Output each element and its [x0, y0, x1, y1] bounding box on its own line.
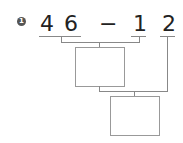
digit-tens-minuend: 4 — [40, 13, 54, 35]
digit-ones-subtrahend: 2 — [162, 13, 176, 35]
bracket-bar — [61, 42, 140, 43]
digit-tens-subtrahend: 1 — [133, 13, 147, 35]
answer-box-2[interactable] — [110, 96, 160, 136]
digit-ones-minuend: 6 — [64, 13, 78, 35]
underline-46 — [39, 36, 81, 37]
minus-operator: − — [99, 13, 117, 35]
problem-number-badge: 1 — [17, 17, 26, 26]
answer-box-1[interactable] — [75, 47, 125, 87]
bracket2-right-stem — [167, 36, 168, 91]
math-decomposition-problem: 1 4 6 − 1 2 — [0, 0, 183, 143]
